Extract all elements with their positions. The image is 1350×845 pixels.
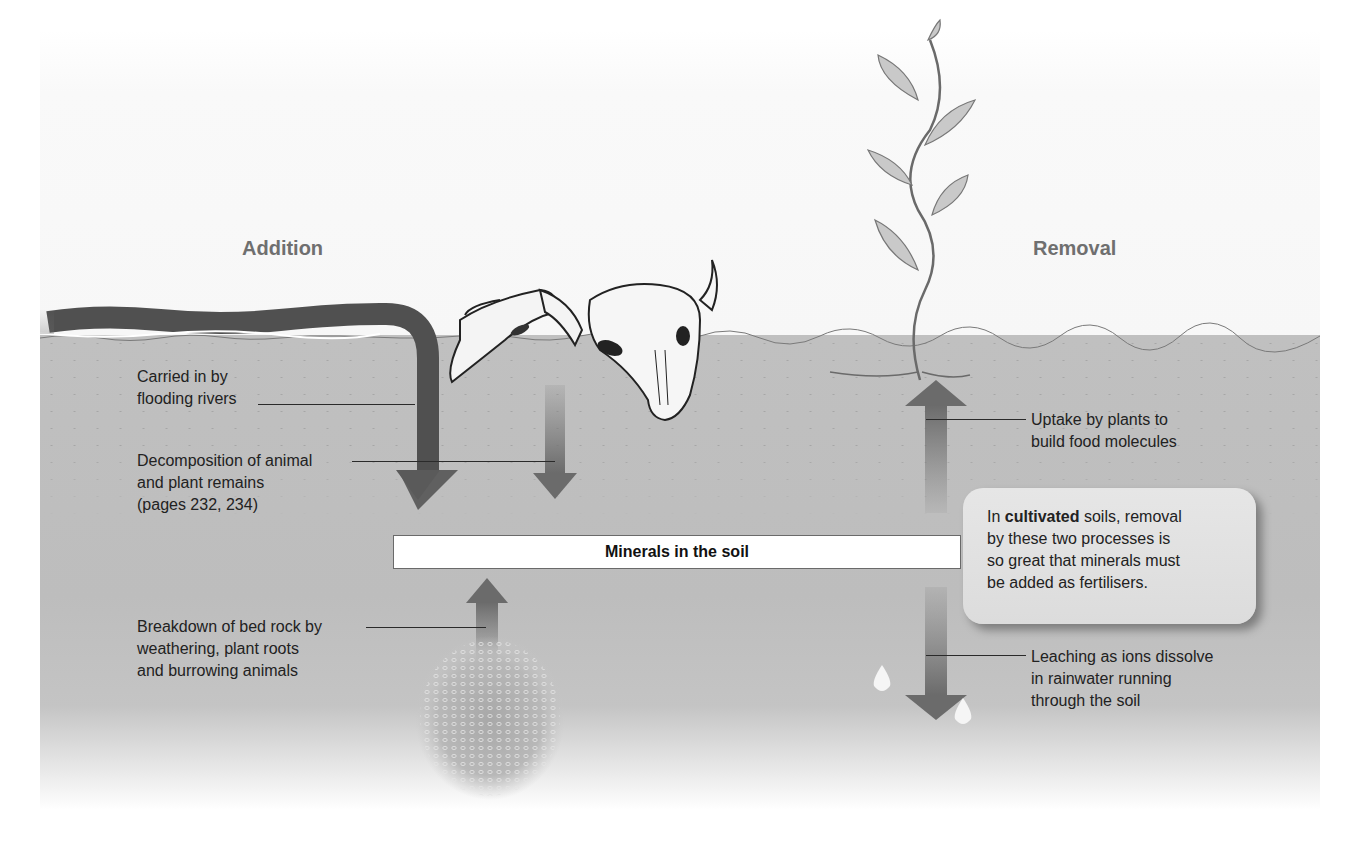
animal-skull-icon (450, 290, 582, 382)
minerals-in-soil-box: Minerals in the soil (393, 535, 961, 569)
plant-uptake-label: Uptake by plants to build food molecules (1031, 409, 1177, 453)
plant-leaf-icons (868, 20, 975, 270)
uptake-arrow-icon (925, 405, 947, 513)
decomposition-label: Decomposition of animal and plant remain… (137, 450, 312, 516)
cultivated-soils-note: In cultivated soils, removal by these tw… (963, 488, 1256, 624)
flooding-rivers-label: Carried in by flooding rivers (137, 366, 237, 410)
decomposition-leader-line (352, 461, 555, 462)
decomposition-arrow-icon (545, 385, 565, 473)
bedrock-leader-line (366, 627, 486, 628)
cultivated-bold-text: cultivated (1005, 508, 1080, 525)
leaching-leader-line (926, 655, 1026, 656)
bedrock-label: Breakdown of bed rock by weathering, pla… (137, 616, 322, 682)
flooding-rivers-leader-line (258, 404, 415, 405)
cow-skull-icon (589, 260, 717, 420)
removal-heading: Removal (1033, 237, 1116, 260)
leaching-label: Leaching as ions dissolve in rainwater r… (1031, 646, 1213, 712)
plant-uptake-leader-line (926, 419, 1026, 420)
addition-heading: Addition (242, 237, 323, 260)
leaching-arrow-icon (925, 587, 947, 695)
raindrop-icon (874, 665, 891, 691)
